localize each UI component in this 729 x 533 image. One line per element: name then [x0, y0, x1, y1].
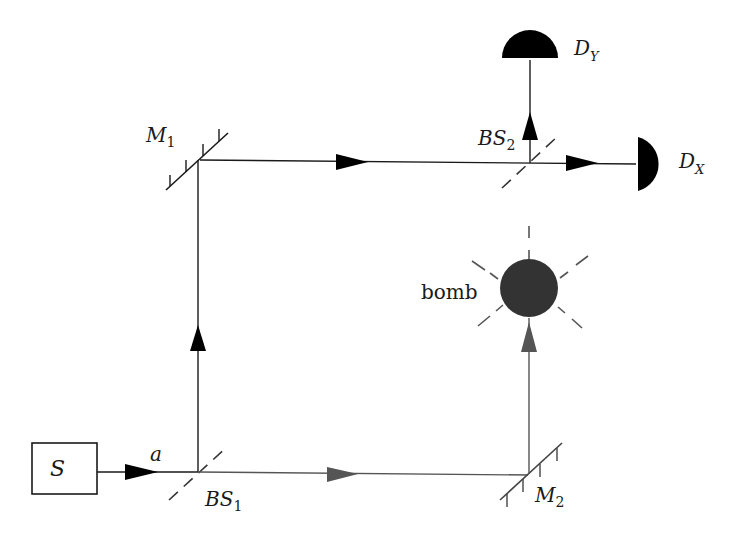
- source-label: S: [50, 456, 65, 481]
- dy-arrow-icon: [522, 112, 538, 140]
- input-arrow-icon: [125, 464, 158, 480]
- detector-x-icon: [638, 137, 659, 191]
- detector-y-icon: [502, 30, 558, 58]
- input-mode-label: a: [150, 442, 162, 466]
- m2-label: M2: [534, 483, 564, 510]
- lower-horizontal-arrow-icon: [327, 467, 358, 482]
- bomb-label: bomb: [421, 280, 478, 304]
- bs1-label: BS1: [204, 487, 242, 514]
- dx-arrow-icon: [566, 155, 598, 171]
- interferometer-diagram: S a BS1 M1 BS2 DY DX M2: [0, 0, 729, 533]
- bomb-icon: [500, 259, 558, 317]
- dx-label: DX: [678, 149, 705, 177]
- dy-label: DY: [573, 36, 600, 64]
- bomb-arrow-icon: [521, 322, 537, 352]
- m1-label: M1: [145, 123, 175, 150]
- upper-horizontal-arrow-icon: [336, 154, 368, 170]
- lower-arm-horizontal: [198, 472, 528, 475]
- bs2-label: BS2: [477, 126, 515, 153]
- upper-arm-arrow-icon: [190, 325, 206, 351]
